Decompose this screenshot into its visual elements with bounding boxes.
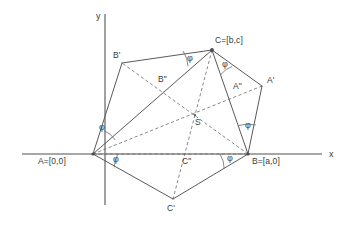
point-label-B-double-prime: B" <box>158 75 167 84</box>
edge-Bprime-C <box>122 50 212 63</box>
vertex-dot-S <box>194 114 196 116</box>
point-label-B: B=[a,0] <box>252 157 280 166</box>
point-label-C-prime: C' <box>167 204 175 213</box>
geometry-figure: x y A=[0,0] B=[a,0] C=[b,c] A' B' C' A" … <box>0 0 362 233</box>
axis-group <box>22 14 322 205</box>
cevian-B-Bprime <box>122 63 248 154</box>
point-label-B-prime: B' <box>113 51 121 60</box>
edge-C-B <box>212 50 248 154</box>
phi-label-at-C-left: φ <box>187 54 193 63</box>
solid-edges-group <box>93 50 262 199</box>
cevian-C-Cprime <box>173 50 212 199</box>
phi-label-at-C-right: φ <box>222 60 228 69</box>
y-axis-label: y <box>96 12 101 21</box>
vertex-dot-C <box>210 48 214 52</box>
arc-B-lower <box>220 154 224 169</box>
vertex-dot-A <box>91 152 94 155</box>
x-axis-label: x <box>329 150 334 159</box>
point-label-C: C=[b,c] <box>215 36 243 45</box>
phi-label-at-A-upper: φ <box>99 123 105 132</box>
phi-label-at-B-upper: φ <box>245 121 251 130</box>
geometry-canvas <box>0 0 362 233</box>
point-label-A-double-prime: A" <box>233 82 242 91</box>
vertex-dot-B <box>246 152 249 155</box>
point-label-A-prime: A' <box>267 76 275 85</box>
point-label-S: S <box>195 118 201 127</box>
phi-label-at-A-lower: φ <box>113 155 119 164</box>
point-label-A: A=[0,0] <box>38 157 66 166</box>
point-label-C-double-prime: C" <box>182 157 191 166</box>
phi-label-at-B-lower: φ <box>227 154 233 163</box>
edge-A-Bprime <box>93 63 122 154</box>
edge-A-C <box>93 50 212 154</box>
dashed-edges-group <box>93 50 262 199</box>
